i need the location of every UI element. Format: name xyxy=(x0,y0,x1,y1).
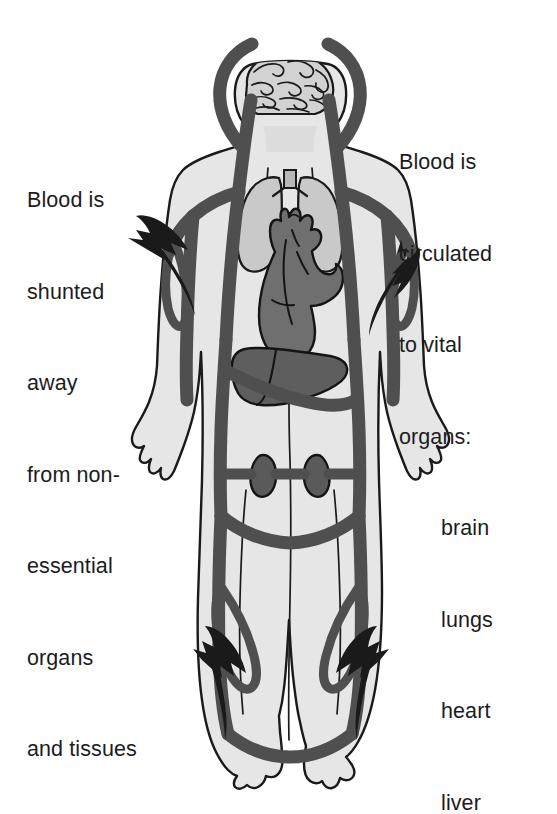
annotation-right-line-3: organs: xyxy=(399,422,515,453)
brain-organ xyxy=(246,54,333,114)
annotation-left-line-1: shunted xyxy=(27,277,137,308)
annotation-left-line-4: essential xyxy=(27,551,137,582)
annotation-left-line-2: away xyxy=(27,368,137,399)
vessel-torso-right xyxy=(354,340,360,516)
annotation-left-line-5: organs xyxy=(27,643,137,674)
diagram-root: Blood is shunted away from non- essentia… xyxy=(0,0,557,814)
organ-list-item-lungs: lungs xyxy=(399,605,515,636)
annotation-right-line-2: to vital xyxy=(399,330,515,361)
annotation-left-line-0: Blood is xyxy=(27,185,137,216)
shunted-away-annotation: Blood is shunted away from non- essentia… xyxy=(27,124,137,814)
organ-list-item-liver: liver xyxy=(399,788,515,814)
annotation-right-line-0: Blood is xyxy=(399,147,515,178)
annotation-left-line-6: and tissues xyxy=(27,734,137,765)
organ-list-item-brain: brain xyxy=(399,513,515,544)
vital-organs-annotation: Blood is circulated to vital organs: bra… xyxy=(399,86,515,814)
organ-list-item-heart: heart xyxy=(399,696,515,727)
annotation-right-line-1: circulated xyxy=(399,239,515,270)
annotation-left-line-3: from non- xyxy=(27,460,137,491)
